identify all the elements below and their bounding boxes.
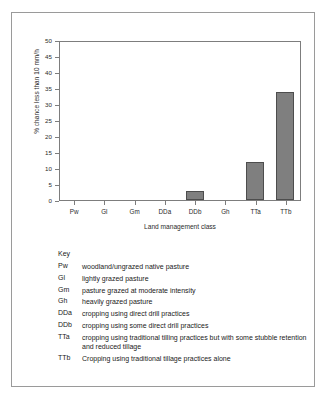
key-entry-description: lightly grazed pasture [82, 274, 308, 283]
bar-slot [60, 42, 90, 200]
y-axis-tick-label: 35 [32, 85, 52, 92]
y-axis-tick-label: 30 [32, 101, 52, 108]
x-axis-tick [104, 201, 105, 205]
y-axis-tick-label: 15 [32, 149, 52, 156]
bar-slot [150, 42, 180, 200]
key-entry-description: cropping using traditional tilling pract… [82, 333, 308, 352]
y-axis-tick-label: 10 [32, 165, 52, 172]
bar-slot [240, 42, 270, 200]
key-entry-description: pasture grazed at moderate intensity [82, 286, 308, 295]
x-axis-tick-label: TTa [239, 208, 273, 215]
key-entry-abbr: Pw [58, 262, 82, 269]
bar-slot [270, 42, 300, 200]
chart-key: Key Pwwoodland/ungrazed native pastureGl… [58, 250, 308, 366]
x-axis-tick-label: TTb [269, 208, 303, 215]
x-axis-tick-label: Gh [208, 208, 242, 215]
bar-slot [90, 42, 120, 200]
x-axis-tick [256, 201, 257, 205]
key-entry: DDbcropping using some direct drill prac… [58, 321, 308, 330]
x-axis-tick [286, 201, 287, 205]
key-title: Key [58, 250, 308, 257]
y-axis-tick [55, 201, 59, 202]
key-entry-abbr: DDa [58, 309, 82, 316]
figure-frame: % chance less than 10 mm/h 0510152025303… [11, 12, 315, 387]
x-axis-tick-label: Pw [57, 208, 91, 215]
key-entry-description: heavily grazed pasture [82, 297, 308, 306]
key-entry-description: Cropping using traditional tillage pract… [82, 354, 308, 363]
key-entry-abbr: TTa [58, 333, 82, 340]
bar-chart: % chance less than 10 mm/h 0510152025303… [12, 13, 316, 235]
x-axis-tick [135, 201, 136, 205]
y-axis-tick-label: 20 [32, 133, 52, 140]
key-entry: Pwwoodland/ungrazed native pasture [58, 262, 308, 271]
key-entry-abbr: Gm [58, 286, 82, 293]
x-axis-tick [74, 201, 75, 205]
key-entry-abbr: DDb [58, 321, 82, 328]
bar [276, 92, 294, 200]
key-entry: Gmpasture grazed at moderate intensity [58, 286, 308, 295]
y-axis-tick-label: 5 [32, 181, 52, 188]
key-entry: Gllightly grazed pasture [58, 274, 308, 283]
key-entry-abbr: Gh [58, 297, 82, 304]
key-entry-abbr: TTb [58, 354, 82, 361]
key-entry: Ghheavily grazed pasture [58, 297, 308, 306]
key-entry-abbr: Gl [58, 274, 82, 281]
x-axis-tick [225, 201, 226, 205]
x-axis-tick [195, 201, 196, 205]
key-entry: DDacropping using direct drill practices [58, 309, 308, 318]
x-axis-tick-label: DDb [178, 208, 212, 215]
key-entry-description: cropping using direct drill practices [82, 309, 308, 318]
x-axis-tick-label: Gm [118, 208, 152, 215]
x-axis-tick-label: Gl [87, 208, 121, 215]
bar [186, 191, 204, 200]
y-axis-tick-label: 25 [32, 117, 52, 124]
key-entry-list: Pwwoodland/ungrazed native pastureGlligh… [58, 262, 308, 363]
key-entry: TTbCropping using traditional tillage pr… [58, 354, 308, 363]
key-entry: TTacropping using traditional tilling pr… [58, 333, 308, 352]
x-axis-tick-label: DDa [148, 208, 182, 215]
x-axis-tick [165, 201, 166, 205]
bar-series [60, 42, 300, 200]
plot-area [59, 41, 301, 201]
bar-slot [210, 42, 240, 200]
bar [246, 162, 264, 200]
y-axis-tick-label: 40 [32, 69, 52, 76]
y-axis-tick-label: 50 [32, 37, 52, 44]
bar-slot [120, 42, 150, 200]
x-axis-label: Land management class [59, 223, 301, 230]
key-entry-description: woodland/ungrazed native pasture [82, 262, 308, 271]
y-axis-tick-label: 0 [32, 197, 52, 204]
y-axis-tick-label: 45 [32, 53, 52, 60]
key-entry-description: cropping using some direct drill practic… [82, 321, 308, 330]
bar-slot [180, 42, 210, 200]
